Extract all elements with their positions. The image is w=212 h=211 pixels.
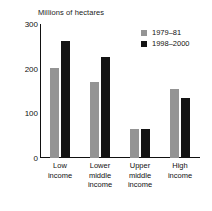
bar-1979-81-low-income: [50, 68, 59, 158]
bar-1998-2000-lower-middle-income: [101, 57, 110, 158]
legend-item-1979-81: 1979–81: [141, 27, 190, 38]
x-label-low-income: Lowincome: [40, 161, 80, 180]
bar-1979-81-lower-middle-income: [90, 82, 99, 158]
legend-swatch-icon-1998-2000: [141, 41, 147, 47]
bar-chart: Millions of hectares 300 200 100 0 Lowin…: [0, 0, 212, 211]
x-label-lower-middle-income: Lowermiddleincome: [80, 161, 120, 190]
bar-group-low-income: [40, 24, 80, 158]
bar-1979-81-high-income: [170, 89, 179, 158]
y-tick-label-300: 300: [4, 20, 38, 29]
legend-swatch-icon-1979-81: [141, 30, 147, 36]
bar-1998-2000-upper-middle-income: [141, 129, 150, 158]
chart-title: Millions of hectares: [38, 8, 104, 17]
legend-label-1979-81: 1979–81: [152, 28, 181, 37]
bar-1979-81-upper-middle-income: [130, 129, 139, 158]
y-tick-label-100: 100: [4, 109, 38, 118]
legend-item-1998-2000: 1998–2000: [141, 38, 190, 49]
x-label-upper-middle-income: Uppermiddleincome: [120, 161, 160, 190]
legend-label-1998-2000: 1998–2000: [152, 39, 190, 48]
y-tick-label-200: 200: [4, 64, 38, 73]
y-tick-label-0: 0: [4, 154, 38, 163]
x-label-high-income: Highincome: [160, 161, 200, 180]
bar-1998-2000-high-income: [181, 98, 190, 158]
bar-group-lower-middle-income: [80, 24, 120, 158]
bar-1998-2000-low-income: [61, 41, 70, 158]
y-axis: 300 200 100 0: [0, 0, 38, 211]
legend: 1979–81 1998–2000: [141, 27, 190, 49]
